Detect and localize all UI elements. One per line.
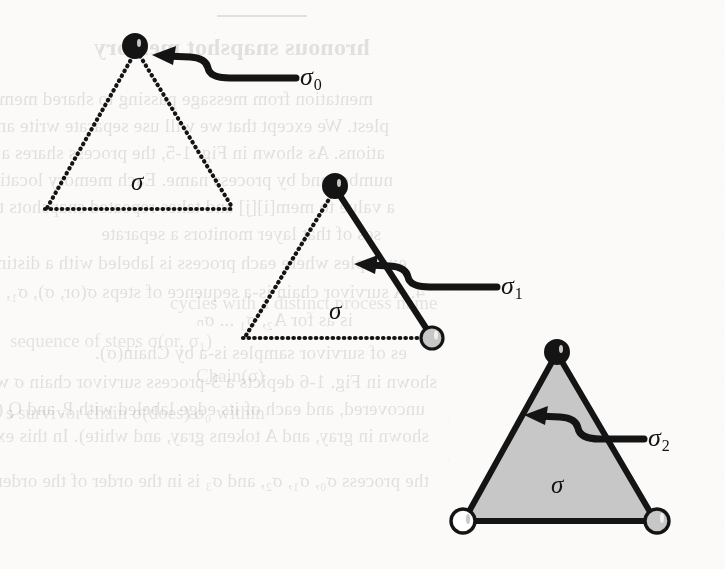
stage-1-arrow-label-sigma: σ (501, 271, 514, 300)
stage-1-node-bottom-right (421, 327, 443, 349)
stage-2-node-bottom-left-highlight (466, 514, 470, 524)
stage-1-node-apex (323, 174, 347, 198)
stage-0-node-apex-highlight (137, 39, 141, 47)
scanned-page: hronous snapshot memory mentation from m… (0, 0, 725, 569)
stage-0-arrow-label: σ0 (300, 62, 322, 94)
stage-0-arrow-label-subscript: 0 (314, 76, 322, 93)
stage-1-arrow (354, 255, 497, 287)
stage-2-arrow-label-subscript: 2 (662, 437, 670, 454)
stage-1-arrow-label-subscript: 1 (515, 285, 523, 302)
stage-2-node-bottom-right-highlight (660, 513, 664, 523)
stage-1-arrow-label: σ1 (501, 271, 523, 303)
stage-1-edge-left (245, 196, 331, 337)
stage-0-edge-left (47, 56, 133, 208)
stage-1-node-apex-highlight (337, 179, 341, 187)
stage-2-node-apex-highlight (559, 345, 563, 353)
stage-2-node-bottom-left (451, 509, 475, 533)
stage-1-triangle (243, 174, 443, 349)
stage-1-node-bottom-right-highlight (434, 331, 438, 340)
stage-2-inner-label: σ (551, 471, 563, 499)
stage-2-arrow-label-sigma: σ (648, 423, 661, 452)
stage-0-node-apex (123, 34, 147, 58)
figure-diagram (0, 0, 725, 569)
stage-2-node-apex (545, 340, 569, 364)
stage-0-inner-label: σ (131, 168, 143, 196)
stage-2-arrow-label: σ2 (648, 423, 670, 455)
stage-0-arrow (152, 46, 296, 78)
stage-0-arrow-label-sigma: σ (300, 62, 313, 91)
stage-1-inner-label: σ (329, 297, 341, 325)
stage-2-node-bottom-right (645, 509, 669, 533)
